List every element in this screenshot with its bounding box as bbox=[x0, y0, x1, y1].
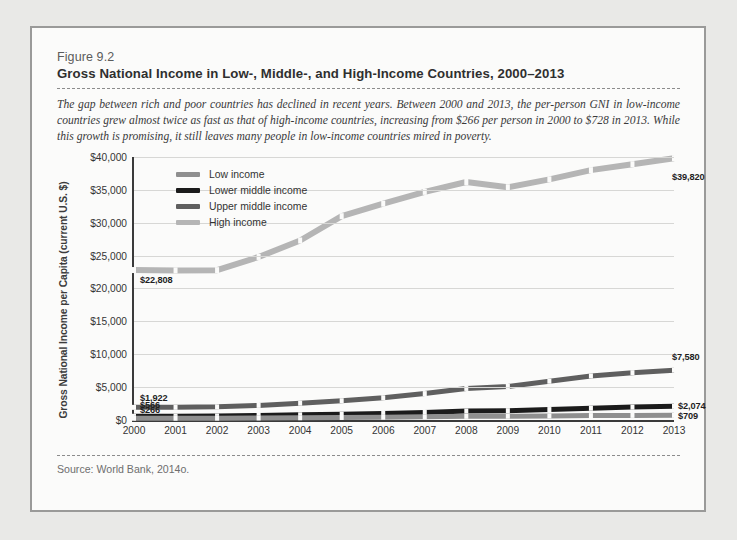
legend-label: Lower middle income bbox=[209, 185, 307, 196]
y-axis-tick-label: $35,000 bbox=[90, 184, 127, 195]
chart-legend: Low incomeLower middle incomeUpper middl… bbox=[176, 167, 307, 231]
grid-line bbox=[134, 321, 674, 322]
data-point-marker bbox=[464, 409, 468, 414]
x-axis-tick-label: 2008 bbox=[455, 425, 478, 436]
chart-area: Gross National Income per Capita (curren… bbox=[54, 151, 686, 451]
legend-item[interactable]: Upper middle income bbox=[176, 199, 307, 214]
y-axis-tick-label: $0 bbox=[116, 414, 127, 425]
legend-item[interactable]: High income bbox=[176, 215, 307, 230]
data-label: $7,580 bbox=[672, 352, 700, 362]
data-point-marker bbox=[506, 408, 510, 413]
figure-title: Gross National Income in Low-, Middle-, … bbox=[57, 66, 682, 81]
figure-source: Source: World Bank, 2014o. bbox=[57, 463, 682, 475]
data-point-marker bbox=[174, 405, 178, 410]
data-point-marker bbox=[132, 405, 136, 410]
x-axis-tick-label: 2000 bbox=[123, 425, 146, 436]
legend-swatch-icon bbox=[176, 204, 200, 209]
legend-swatch-icon bbox=[176, 172, 200, 177]
legend-label: High income bbox=[209, 217, 267, 228]
data-point-marker bbox=[630, 370, 634, 375]
legend-item[interactable]: Lower middle income bbox=[176, 183, 307, 198]
x-axis-tick-label: 2002 bbox=[206, 425, 229, 436]
data-point-marker bbox=[381, 415, 385, 420]
data-label: $39,820 bbox=[672, 172, 705, 182]
figure-inner: Figure 9.2 Gross National Income in Low-… bbox=[32, 28, 704, 510]
y-axis-tick-label: $25,000 bbox=[90, 250, 127, 261]
data-label: $2,074 bbox=[678, 401, 706, 411]
data-point-marker bbox=[298, 401, 302, 406]
data-point-marker bbox=[257, 415, 261, 420]
data-point-marker bbox=[547, 413, 551, 418]
x-axis-tick-label: 2009 bbox=[497, 425, 520, 436]
data-point-marker bbox=[589, 167, 593, 173]
y-axis-tick-label: $20,000 bbox=[90, 283, 127, 294]
series-line-upper-middle-income bbox=[134, 370, 674, 407]
data-label: $266 bbox=[140, 405, 160, 415]
data-point-marker bbox=[547, 379, 551, 384]
data-point-marker bbox=[215, 267, 219, 273]
x-axis-tick-label: 2012 bbox=[621, 425, 644, 436]
grid-line bbox=[134, 288, 674, 289]
data-point-marker bbox=[132, 267, 136, 273]
grid-line bbox=[134, 157, 674, 158]
data-point-marker bbox=[630, 413, 634, 418]
data-point-marker bbox=[381, 395, 385, 400]
data-point-marker bbox=[340, 415, 344, 420]
legend-swatch-icon bbox=[176, 220, 200, 225]
data-point-marker bbox=[630, 405, 634, 410]
source-divider bbox=[57, 455, 680, 456]
y-axis-tick-label: $5,000 bbox=[96, 382, 127, 393]
grid-line bbox=[134, 387, 674, 388]
figure-caption: The gap between rich and poor countries … bbox=[57, 97, 680, 145]
data-point-marker bbox=[423, 410, 427, 415]
data-point-marker bbox=[132, 416, 136, 421]
x-axis-tick-label: 2001 bbox=[164, 425, 187, 436]
data-point-marker bbox=[464, 414, 468, 419]
data-point-marker bbox=[257, 403, 261, 408]
x-axis-tick-label: 2003 bbox=[247, 425, 270, 436]
data-point-marker bbox=[672, 368, 676, 373]
data-point-marker bbox=[589, 413, 593, 418]
data-point-marker bbox=[423, 414, 427, 419]
y-axis-tick-label: $10,000 bbox=[90, 349, 127, 360]
x-axis-tick-label: 2013 bbox=[663, 425, 686, 436]
data-label: $709 bbox=[678, 411, 698, 421]
data-point-marker bbox=[589, 406, 593, 411]
page-root: Figure 9.2 Gross National Income in Low-… bbox=[0, 0, 737, 540]
data-point-marker bbox=[174, 416, 178, 421]
x-axis-tick-label: 2006 bbox=[372, 425, 395, 436]
x-axis-tick-label: 2010 bbox=[538, 425, 561, 436]
x-axis-tick-label: 2004 bbox=[289, 425, 312, 436]
legend-label: Upper middle income bbox=[209, 201, 307, 212]
y-axis-tick-label: $40,000 bbox=[90, 151, 127, 162]
data-point-marker bbox=[672, 404, 676, 409]
data-label: $22,808 bbox=[140, 275, 173, 285]
data-point-marker bbox=[672, 413, 676, 418]
legend-label: Low income bbox=[209, 169, 264, 180]
data-point-marker bbox=[547, 176, 551, 182]
x-axis-tick-label: 2011 bbox=[580, 425, 602, 436]
data-point-marker bbox=[340, 398, 344, 403]
y-axis-tick-label: $15,000 bbox=[90, 316, 127, 327]
data-point-marker bbox=[589, 373, 593, 378]
data-point-marker bbox=[630, 161, 634, 167]
data-point-marker bbox=[340, 213, 344, 219]
data-point-marker bbox=[215, 404, 219, 409]
grid-line bbox=[134, 354, 674, 355]
y-axis-tick-label: $30,000 bbox=[90, 217, 127, 228]
series-line-low-income bbox=[134, 415, 674, 418]
legend-item[interactable]: Low income bbox=[176, 167, 307, 182]
data-point-marker bbox=[298, 415, 302, 420]
figure-number: Figure 9.2 bbox=[57, 50, 682, 64]
title-divider bbox=[57, 88, 680, 89]
figure-card: Figure 9.2 Gross National Income in Low-… bbox=[30, 26, 706, 512]
grid-line bbox=[134, 256, 674, 257]
data-point-marker bbox=[215, 416, 219, 421]
data-point-marker bbox=[381, 201, 385, 207]
y-axis-title: Gross National Income per Capita (curren… bbox=[58, 161, 72, 439]
data-point-marker bbox=[423, 391, 427, 396]
data-point-marker bbox=[506, 414, 510, 419]
data-point-marker bbox=[464, 179, 468, 185]
x-axis-tick-label: 2005 bbox=[330, 425, 353, 436]
legend-swatch-icon bbox=[176, 188, 200, 193]
